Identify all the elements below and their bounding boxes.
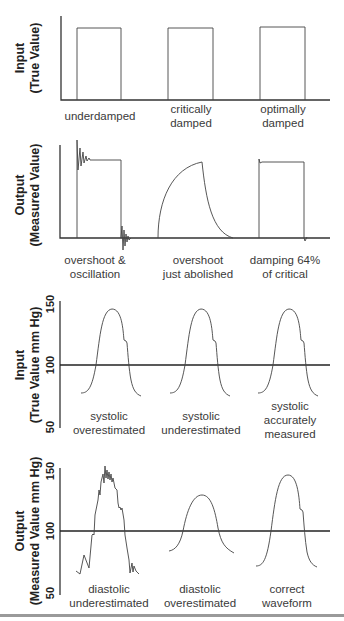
tick-150: 150 — [44, 295, 56, 313]
caption: systolic — [90, 410, 128, 422]
output-critical — [158, 162, 233, 238]
caption: underdamped — [65, 110, 136, 122]
input-wave — [258, 309, 318, 396]
output-overdamped-wave — [169, 495, 234, 553]
input-pulse — [168, 28, 213, 100]
output-optimal — [259, 159, 307, 241]
caption: optimally — [260, 103, 306, 115]
output-correct-wave — [256, 475, 317, 567]
y-axis-label: Input — [13, 349, 27, 380]
y-axis-label: Output — [13, 174, 27, 216]
axis — [60, 145, 330, 238]
caption: damped — [262, 117, 304, 129]
panel-arterial-output: Output (Measured Value mm Hg) 150 100 50… — [13, 457, 330, 609]
bottom-divider — [0, 614, 344, 617]
caption: just abolished — [162, 268, 233, 280]
panel-arterial-input: Input (True Value mm Hg) 150 100 50 syst… — [13, 295, 330, 440]
caption: overshoot — [173, 254, 224, 266]
output-underdamped — [77, 140, 131, 250]
caption: diastolic — [88, 583, 130, 595]
tick-100: 100 — [44, 522, 56, 540]
caption: critically — [171, 103, 212, 115]
axis — [61, 16, 330, 100]
tick-100: 100 — [44, 356, 56, 374]
caption: systolic — [271, 400, 309, 412]
input-pulse — [260, 27, 305, 100]
caption: correct — [269, 583, 305, 595]
caption: accurately — [264, 414, 317, 426]
input-pulse — [77, 28, 121, 100]
input-wave — [81, 309, 141, 396]
y-axis-sublabel: (True Value) — [28, 23, 42, 94]
y-axis-label: Input — [13, 42, 27, 73]
caption: of critical — [262, 268, 307, 280]
caption: underestimated — [161, 424, 240, 436]
input-wave — [170, 309, 230, 396]
caption: systolic — [182, 410, 220, 422]
output-underdamped-wave — [76, 466, 139, 574]
damping-diagram: Input (True Value) underdamped criticall… — [0, 0, 344, 621]
tick-150: 150 — [44, 462, 56, 480]
tick-50: 50 — [44, 421, 56, 433]
caption: diastolic — [179, 583, 221, 595]
panel-square-output: Output (Measured Value) overshoot & osci… — [13, 140, 330, 280]
y-axis-sublabel: (Measured Value mm Hg) — [28, 457, 42, 606]
y-axis-sublabel: (Measured Value) — [28, 144, 42, 247]
caption: overshoot & — [64, 254, 126, 266]
caption: damped — [170, 117, 212, 129]
caption: measured — [264, 428, 315, 440]
y-axis-sublabel: (True Value mm Hg) — [28, 307, 42, 424]
y-axis-label: Output — [13, 510, 27, 552]
caption: underestimated — [69, 597, 148, 609]
caption: overestimated — [73, 424, 145, 436]
tick-50: 50 — [44, 587, 56, 599]
caption: oscillation — [70, 268, 121, 280]
panel-square-input: Input (True Value) underdamped criticall… — [13, 16, 330, 129]
caption: damping 64% — [250, 254, 320, 266]
caption: overestimated — [164, 597, 236, 609]
caption: waveform — [261, 597, 312, 609]
